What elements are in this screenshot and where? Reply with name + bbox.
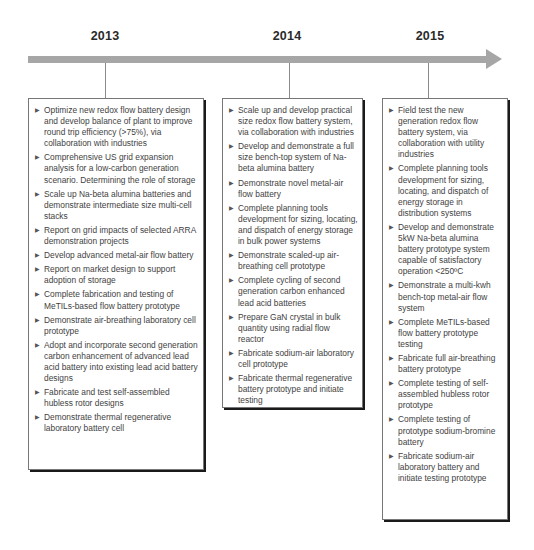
bullet-arrow-icon: ▶ [389, 163, 394, 174]
milestone-item: ▶Comprehensive US grid expansion analysi… [35, 152, 199, 185]
bullet-arrow-icon: ▶ [389, 280, 394, 291]
milestone-text: Complete planning tools development for … [238, 203, 358, 246]
milestone-text: Fabricate sodium-air laboratory battery … [398, 451, 486, 483]
milestone-text: Prepare GaN crystal in bulk quantity usi… [238, 312, 340, 344]
milestone-item: ▶Demonstrate novel metal-air flow batter… [229, 178, 358, 200]
connector-2015 [428, 63, 429, 98]
milestone-item: ▶Report on market design to support adop… [35, 264, 199, 286]
milestone-box-2014: ▶Scale up and develop practical size red… [222, 98, 363, 408]
milestone-item: ▶Fabricate and test self-assembled huble… [35, 387, 199, 409]
milestone-item: ▶Adopt and incorporate second generation… [35, 340, 199, 384]
bullet-arrow-icon: ▶ [229, 250, 234, 261]
bullet-arrow-icon: ▶ [35, 225, 40, 236]
year-label-2015: 2015 [416, 29, 445, 43]
milestone-text: Demonstrate air-breathing laboratory cel… [44, 315, 196, 336]
bullet-arrow-icon: ▶ [229, 105, 234, 116]
milestone-text: Complete planning tools development for … [398, 163, 488, 217]
connector-2013 [105, 63, 106, 98]
milestone-text: Optimize new redox flow battery design a… [44, 105, 193, 148]
arrow-head-icon [486, 49, 502, 69]
milestone-text: Demonstrate thermal regenerative laborat… [44, 412, 171, 433]
milestone-text: Fabricate sodium-air laboratory cell pro… [238, 348, 354, 369]
milestone-text: Report on grid impacts of selected ARRA … [44, 225, 196, 246]
milestone-item: ▶Complete MeTILs-based flow battery prot… [389, 317, 503, 350]
bullet-arrow-icon: ▶ [35, 289, 40, 300]
milestone-text: Complete testing of prototype sodium-bro… [398, 414, 495, 446]
milestone-item: ▶Demonstrate a multi-kwh bench-top metal… [389, 280, 503, 313]
bullet-arrow-icon: ▶ [229, 312, 234, 323]
milestone-list-2015: ▶Field test the new generation redox flo… [389, 105, 503, 484]
milestone-box-2013: ▶Optimize new redox flow battery design … [28, 98, 204, 470]
milestone-list-2014: ▶Scale up and develop practical size red… [229, 105, 358, 406]
bullet-arrow-icon: ▶ [35, 387, 40, 398]
milestone-item: ▶Demonstrate scaled-up air-breathing cel… [229, 250, 358, 272]
milestone-text: Complete testing of self-assembled huble… [398, 378, 489, 410]
bullet-arrow-icon: ▶ [35, 264, 40, 275]
milestone-item: ▶Demonstrate thermal regenerative labora… [35, 412, 199, 434]
milestone-item: ▶Field test the new generation redox flo… [389, 105, 503, 160]
bullet-arrow-icon: ▶ [389, 353, 394, 364]
milestone-text: Develop advanced metal-air flow battery [44, 250, 193, 260]
year-label-2013: 2013 [91, 29, 120, 43]
milestone-item: ▶Complete testing of prototype sodium-br… [389, 414, 503, 447]
bullet-arrow-icon: ▶ [35, 412, 40, 423]
bullet-arrow-icon: ▶ [229, 275, 234, 286]
milestone-text: Comprehensive US grid expansion analysis… [44, 152, 195, 184]
milestone-text: Demonstrate scaled-up air-breathing cell… [238, 250, 339, 271]
milestone-item: ▶Optimize new redox flow battery design … [35, 105, 199, 149]
milestone-item: ▶Prepare GaN crystal in bulk quantity us… [229, 312, 358, 345]
milestone-text: Complete fabrication and testing of MeTI… [44, 289, 180, 310]
bullet-arrow-icon: ▶ [229, 178, 234, 189]
milestone-item: ▶Complete planning tools development for… [389, 163, 503, 218]
bullet-arrow-icon: ▶ [389, 451, 394, 462]
bullet-arrow-icon: ▶ [229, 141, 234, 152]
milestone-item: ▶Complete cycling of second generation c… [229, 275, 358, 308]
milestone-item: ▶Fabricate full air-breathing battery pr… [389, 353, 503, 375]
milestone-text: Develop and demonstrate a full size benc… [238, 141, 354, 173]
milestone-item: ▶Report on grid impacts of selected ARRA… [35, 225, 199, 247]
bullet-arrow-icon: ▶ [35, 250, 40, 261]
milestone-item: ▶Fabricate sodium-air laboratory cell pr… [229, 348, 358, 370]
milestone-text: Develop and demonstrate 5kW Na-beta alum… [398, 222, 494, 276]
milestone-list-2013: ▶Optimize new redox flow battery design … [35, 105, 199, 435]
milestone-item: ▶Scale up Na-beta alumina batteries and … [35, 189, 199, 222]
milestone-item: ▶Fabricate sodium-air laboratory battery… [389, 451, 503, 484]
connector-2014 [289, 63, 290, 98]
bullet-arrow-icon: ▶ [389, 105, 394, 116]
bullet-arrow-icon: ▶ [35, 315, 40, 326]
milestone-text: Fabricate and test self-assembled hubles… [44, 387, 170, 408]
milestone-item: ▶Develop advanced metal-air flow battery [35, 250, 199, 261]
milestone-item: ▶Develop and demonstrate a full size ben… [229, 141, 358, 174]
bullet-arrow-icon: ▶ [389, 378, 394, 389]
milestone-item: ▶Fabricate thermal regenerative battery … [229, 373, 358, 406]
milestone-box-2015: ▶Field test the new generation redox flo… [382, 98, 508, 520]
milestone-text: Demonstrate a multi-kwh bench-top metal-… [398, 280, 491, 312]
milestone-item: ▶Complete fabrication and testing of MeT… [35, 289, 199, 311]
bullet-arrow-icon: ▶ [35, 340, 40, 351]
bullet-arrow-icon: ▶ [229, 373, 234, 384]
milestone-text: Complete MeTILs-based flow battery proto… [398, 317, 490, 349]
bullet-arrow-icon: ▶ [389, 222, 394, 233]
bullet-arrow-icon: ▶ [229, 203, 234, 214]
bullet-arrow-icon: ▶ [35, 105, 40, 116]
timeline-arrow-shaft [28, 56, 490, 63]
milestone-item: ▶Demonstrate air-breathing laboratory ce… [35, 315, 199, 337]
milestone-text: Fabricate full air-breathing battery pro… [398, 353, 495, 374]
milestone-item: ▶Scale up and develop practical size red… [229, 105, 358, 138]
milestone-text: Complete cycling of second generation ca… [238, 275, 345, 307]
milestone-item: ▶Complete testing of self-assembled hubl… [389, 378, 503, 411]
milestone-text: Field test the new generation redox flow… [398, 105, 484, 159]
milestone-text: Demonstrate novel metal-air flow battery [238, 178, 343, 199]
milestone-text: Report on market design to support adopt… [44, 264, 175, 285]
milestone-text: Scale up Na-beta alumina batteries and d… [44, 189, 192, 221]
bullet-arrow-icon: ▶ [35, 189, 40, 200]
bullet-arrow-icon: ▶ [389, 414, 394, 425]
milestone-text: Adopt and incorporate second generation … [44, 340, 198, 383]
milestone-item: ▶Complete planning tools development for… [229, 203, 358, 247]
milestone-text: Scale up and develop practical size redo… [238, 105, 354, 137]
year-label-2014: 2014 [273, 29, 302, 43]
bullet-arrow-icon: ▶ [389, 317, 394, 328]
milestone-item: ▶Develop and demonstrate 5kW Na-beta alu… [389, 222, 503, 277]
bullet-arrow-icon: ▶ [35, 152, 40, 163]
milestone-text: Fabricate thermal regenerative battery p… [238, 373, 352, 405]
